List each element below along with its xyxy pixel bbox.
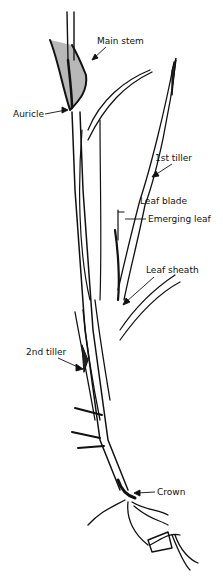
leaf-blade-shape	[88, 70, 152, 140]
leaf-sheath-shape	[120, 275, 180, 340]
label-auricle: Auricle	[13, 109, 44, 119]
first-tiller-shape	[118, 60, 176, 300]
label-leaf-blade: Leaf blade	[140, 196, 187, 206]
label-leaf-sheath: Leaf sheath	[146, 265, 199, 275]
roots	[88, 500, 198, 570]
plant-illustration	[0, 0, 223, 578]
label-first-tiller: 1st tiller	[155, 153, 192, 163]
label-main-stem: Main stem	[97, 36, 144, 46]
arrow-leaf-sheath	[126, 277, 154, 302]
crown-shape	[118, 480, 135, 498]
grass-plant-diagram: Main stem Auricle 1st tiller Leaf blade …	[0, 0, 223, 578]
label-emerging-leaf: Emerging leaf	[148, 214, 211, 224]
label-second-tiller: 2nd tiller	[26, 347, 66, 357]
label-crown: Crown	[157, 487, 185, 497]
emerging-leaf-shape	[118, 210, 124, 240]
